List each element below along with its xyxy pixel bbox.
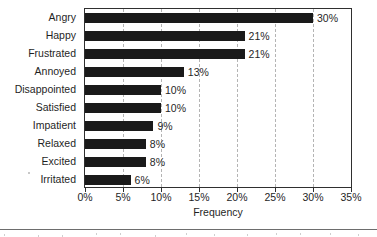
x-tick-label: 20%: [226, 192, 247, 203]
category-label: Irritated: [0, 174, 80, 185]
bar-group: 13%: [85, 63, 351, 81]
bar-value-label: 30%: [317, 13, 338, 24]
x-tick-label: 0%: [77, 192, 92, 203]
category-label: Frustrated: [0, 48, 80, 59]
bar-value-label: 10%: [165, 85, 186, 96]
bar-value-label: 21%: [249, 49, 270, 60]
bar-group: 8%: [85, 153, 351, 171]
x-axis-ticks: 0%5%10%15%20%25%30%35%: [84, 189, 352, 203]
scan-artifact: [330, 233, 331, 235]
x-axis-title: Frequency: [84, 207, 352, 218]
bar-group: 21%: [85, 45, 351, 63]
category-label: Annoyed: [0, 66, 80, 77]
x-tick-label: 35%: [340, 192, 361, 203]
scan-artifact: [62, 235, 63, 237]
x-tick-label: 10%: [150, 192, 171, 203]
bar-value-label: 10%: [165, 103, 186, 114]
x-tick-label: 5%: [115, 192, 130, 203]
x-tick-label: 25%: [264, 192, 285, 203]
bar: [85, 157, 146, 167]
scan-artifact: [38, 235, 39, 237]
scan-artifact: [186, 233, 187, 235]
frequency-bar-chart: AngryHappyFrustratedAnnoyedDisappointedS…: [0, 0, 377, 237]
category-label: Disappointed: [0, 84, 80, 95]
scan-artifact: [155, 235, 156, 237]
y-axis-category-labels: AngryHappyFrustratedAnnoyedDisappointedS…: [0, 8, 80, 188]
scan-artifact: [358, 234, 359, 236]
bar-value-label: 8%: [150, 157, 165, 168]
bar: [85, 31, 245, 41]
bar-group: 9%: [85, 117, 351, 135]
scan-artifact: [276, 233, 277, 235]
bar-group: 10%: [85, 99, 351, 117]
category-label: Relaxed: [0, 138, 80, 149]
scan-artifact-dot: [28, 172, 30, 174]
category-label: Excited: [0, 156, 80, 167]
category-label: Angry: [0, 12, 80, 23]
scan-artifact: [214, 234, 215, 236]
bar-group: 10%: [85, 81, 351, 99]
bar-value-label: 8%: [150, 139, 165, 150]
bar: [85, 103, 161, 113]
bar-value-label: 9%: [157, 121, 172, 132]
bar: [85, 49, 245, 59]
scan-artifact: [4, 234, 5, 236]
scan-artifact: [96, 233, 97, 235]
x-tick-label: 30%: [302, 192, 323, 203]
bar: [85, 121, 153, 131]
bar-value-label: 6%: [135, 175, 150, 186]
bar-group: 6%: [85, 171, 351, 189]
footer-divider: [0, 229, 377, 230]
bar-group: 30%: [85, 9, 351, 27]
scan-artifact: [300, 233, 301, 235]
bars-layer: 30%21%21%13%10%10%9%8%8%6%: [85, 9, 351, 187]
plot-area: 30%21%21%13%10%10%9%8%8%6%: [84, 8, 352, 188]
bar: [85, 139, 146, 149]
category-label: Happy: [0, 30, 80, 41]
bar: [85, 85, 161, 95]
bar-group: 21%: [85, 27, 351, 45]
bar-value-label: 21%: [249, 31, 270, 42]
bar: [85, 175, 131, 185]
bar: [85, 67, 184, 77]
scan-artifact: [247, 234, 248, 236]
scan-artifact: [120, 233, 121, 235]
category-label: Impatient: [0, 120, 80, 131]
bar: [85, 13, 313, 23]
bar-group: 8%: [85, 135, 351, 153]
category-label: Satisfied: [0, 102, 80, 113]
x-tick-label: 15%: [188, 192, 209, 203]
bar-value-label: 13%: [188, 67, 209, 78]
